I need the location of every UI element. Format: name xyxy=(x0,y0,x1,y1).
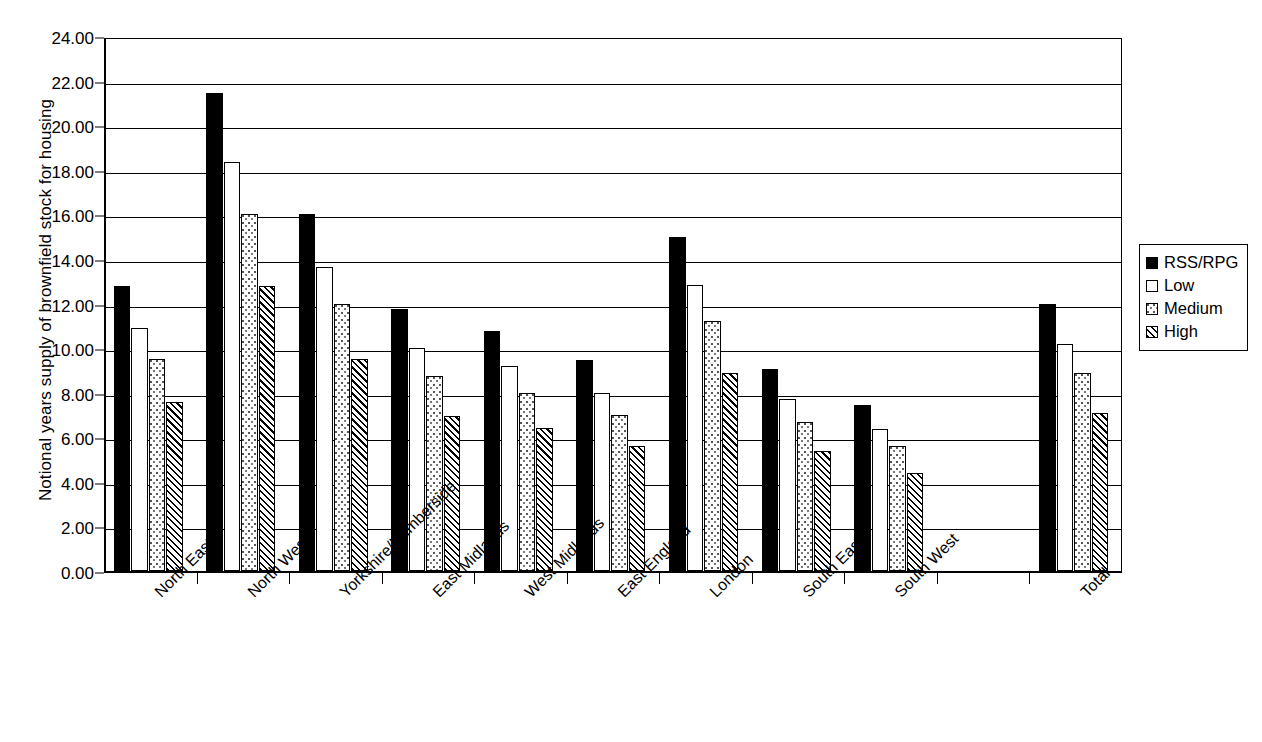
legend-item[interactable]: Medium xyxy=(1146,297,1238,320)
bar-medium xyxy=(1074,373,1091,571)
x-axis-tick-mark xyxy=(289,573,290,584)
y-axis-tick-label: 8.00 xyxy=(14,386,94,403)
bar-rss-rpg xyxy=(669,237,686,571)
bar-high xyxy=(351,359,368,571)
bar-rss-rpg xyxy=(114,286,131,571)
bar-group xyxy=(846,39,939,571)
x-axis-tick-mark xyxy=(659,573,660,584)
legend-swatch-solid-icon xyxy=(1146,257,1158,269)
bar-high xyxy=(722,373,739,571)
bar-group xyxy=(661,39,754,571)
legend-label: High xyxy=(1164,323,1198,340)
y-axis-tick-label: 10.00 xyxy=(14,342,94,359)
y-axis-tick-mark xyxy=(95,216,104,217)
y-axis-tick-mark xyxy=(95,394,104,395)
x-axis-tick-mark xyxy=(752,573,753,584)
y-axis-tick-mark xyxy=(95,38,104,39)
y-axis-tick-label: 4.00 xyxy=(14,475,94,492)
bar-group xyxy=(569,39,662,571)
bar-medium xyxy=(241,214,258,571)
bar-high xyxy=(166,402,183,571)
legend-swatch-dots-icon xyxy=(1146,303,1158,315)
y-axis-tick-label: 18.00 xyxy=(14,163,94,180)
legend-label: Low xyxy=(1164,277,1194,294)
bar-rss-rpg xyxy=(299,214,316,571)
y-axis-tick-label: 14.00 xyxy=(14,252,94,269)
bar-high xyxy=(629,446,646,571)
chart-root: Notional years supply of brownfield stoc… xyxy=(0,0,1262,742)
y-axis-tick-label: 16.00 xyxy=(14,208,94,225)
bar-high xyxy=(536,428,553,571)
legend-swatch-hatch-icon xyxy=(1146,326,1158,338)
y-axis-tick-label: 2.00 xyxy=(14,520,94,537)
bar-low xyxy=(409,348,426,571)
x-axis-tick-mark xyxy=(474,573,475,584)
bar-low xyxy=(872,429,889,571)
y-axis-tick-label: 24.00 xyxy=(14,30,94,47)
bar-medium xyxy=(797,422,814,571)
bar-low xyxy=(779,399,796,571)
bar-group xyxy=(199,39,292,571)
bar-medium xyxy=(889,446,906,571)
y-axis-tick-mark xyxy=(95,483,104,484)
legend-item[interactable]: High xyxy=(1146,320,1238,343)
legend-label: Medium xyxy=(1164,300,1223,317)
y-axis-tick-mark xyxy=(95,171,104,172)
x-axis-tick-mark xyxy=(937,573,938,584)
y-axis-tick-mark xyxy=(95,82,104,83)
bar-rss-rpg xyxy=(206,93,223,571)
bar-group xyxy=(384,39,477,571)
bar-group xyxy=(754,39,847,571)
bar-group xyxy=(939,39,1032,571)
bar-high xyxy=(1092,413,1109,571)
bar-high xyxy=(907,473,924,571)
x-axis-tick-mark xyxy=(382,573,383,584)
bar-low xyxy=(316,267,333,571)
legend-swatch-empty-icon xyxy=(1146,280,1158,292)
plot-area xyxy=(104,38,1122,573)
y-axis-tick-mark xyxy=(95,127,104,128)
bar-group xyxy=(1031,39,1124,571)
bar-medium xyxy=(704,321,721,571)
legend-item[interactable]: RSS/RPG xyxy=(1146,251,1238,274)
y-axis-tick-mark xyxy=(95,350,104,351)
bar-low xyxy=(594,393,611,571)
bar-group xyxy=(291,39,384,571)
y-axis-tick-mark xyxy=(95,528,104,529)
bar-low xyxy=(501,366,518,571)
bar-medium xyxy=(334,304,351,572)
bar-medium xyxy=(426,376,443,571)
legend-item[interactable]: Low xyxy=(1146,274,1238,297)
bar-rss-rpg xyxy=(762,369,779,571)
y-axis-tick-label: 0.00 xyxy=(14,565,94,582)
y-axis-tick-label: 12.00 xyxy=(14,297,94,314)
bar-low xyxy=(1057,344,1074,571)
x-axis-tick-mark xyxy=(844,573,845,584)
bar-group xyxy=(476,39,569,571)
bar-medium xyxy=(149,359,166,571)
bar-low xyxy=(131,328,148,571)
y-axis-tick-mark xyxy=(95,573,104,574)
bar-medium xyxy=(611,415,628,571)
bar-low xyxy=(224,162,241,571)
legend: RSS/RPGLowMediumHigh xyxy=(1139,244,1248,351)
y-axis-tick-label: 22.00 xyxy=(14,74,94,91)
legend-label: RSS/RPG xyxy=(1164,254,1238,271)
y-axis-tick-mark xyxy=(95,439,104,440)
y-axis-tick-mark xyxy=(95,305,104,306)
x-axis-tick-mark xyxy=(567,573,568,584)
bar-high xyxy=(814,451,831,571)
bar-rss-rpg xyxy=(1039,304,1056,572)
x-axis-tick-mark xyxy=(1029,573,1030,584)
y-axis-tick-label: 6.00 xyxy=(14,431,94,448)
x-axis-tick-mark xyxy=(197,573,198,584)
bar-high xyxy=(259,286,276,571)
bar-group xyxy=(106,39,199,571)
bar-medium xyxy=(519,393,536,571)
y-axis-tick-label: 20.00 xyxy=(14,119,94,136)
y-axis-tick-mark xyxy=(95,260,104,261)
